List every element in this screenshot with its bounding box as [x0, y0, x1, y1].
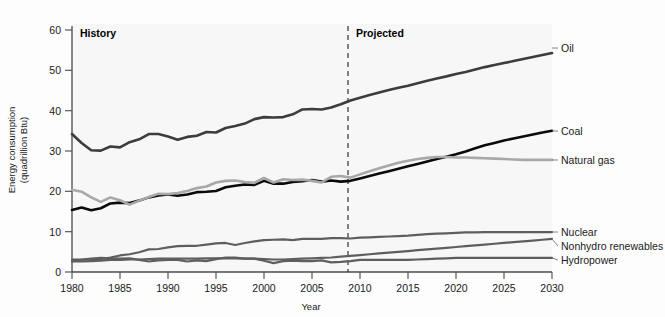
series-label-natural-gas: Natural gas [561, 154, 615, 166]
series-label-nonhydro-renewables: Nonhydro renewables [561, 240, 663, 252]
y-tick-label-0: 0 [55, 266, 61, 278]
projected-label: Projected [356, 27, 404, 39]
y-tick-label-40: 40 [49, 105, 61, 117]
y-axis-title-line2: (quadrillion Btu) [18, 117, 29, 184]
x-tick-label-2015: 2015 [396, 282, 420, 294]
series-labels-group: Oil Coal Natural gas Nuclear Nonhydro re… [552, 42, 663, 266]
x-tick-label-1995: 1995 [204, 282, 228, 294]
x-tick-label-2005: 2005 [300, 282, 324, 294]
chart-canvas: 0 10 20 30 40 50 60 1980 1985 1990 19 [0, 0, 665, 317]
y-tick-label-60: 60 [49, 24, 61, 36]
y-tick-label-10: 10 [49, 226, 61, 238]
x-tick-label-2025: 2025 [492, 282, 516, 294]
x-tick-label-2010: 2010 [348, 282, 372, 294]
leader-hydropower [552, 258, 558, 260]
y-tick-label-30: 30 [49, 145, 61, 157]
x-tick-label-2000: 2000 [252, 282, 276, 294]
series-label-oil: Oil [561, 42, 574, 54]
series-label-nuclear: Nuclear [561, 226, 598, 238]
y-axis-tick-labels: 0 10 20 30 40 50 60 [49, 24, 61, 278]
x-tick-label-1980: 1980 [60, 282, 84, 294]
x-tick-label-2030: 2030 [540, 282, 564, 294]
y-tick-label-20: 20 [49, 185, 61, 197]
series-label-hydropower: Hydropower [561, 254, 618, 266]
series-label-coal: Coal [561, 125, 583, 137]
y-axis-title-line1: Energy consumption [6, 107, 17, 194]
history-label: History [80, 27, 116, 39]
y-tick-label-50: 50 [49, 64, 61, 76]
x-axis-ticks [72, 272, 552, 279]
leader-nonhydro-renewables [552, 239, 558, 246]
y-axis-ticks [65, 30, 72, 272]
x-axis-title: Year [301, 301, 320, 312]
x-tick-label-1990: 1990 [156, 282, 180, 294]
x-tick-label-2020: 2020 [444, 282, 468, 294]
x-tick-label-1985: 1985 [108, 282, 132, 294]
x-axis-tick-labels: 1980 1985 1990 1995 2000 2005 2010 2015 … [60, 282, 564, 294]
energy-consumption-chart: 0 10 20 30 40 50 60 1980 1985 1990 19 [0, 0, 665, 317]
